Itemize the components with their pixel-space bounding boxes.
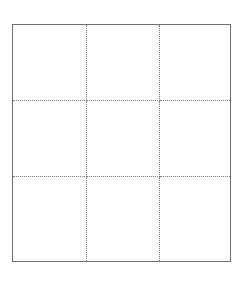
grid-cell-r3-c3[interactable] — [160, 177, 230, 261]
grid-cell-r2-c3[interactable] — [160, 101, 230, 177]
grid-cell-r1-c1[interactable] — [13, 25, 87, 101]
grid-cell-r1-c2[interactable] — [87, 25, 160, 101]
grid-cell-r3-c2[interactable] — [87, 177, 160, 261]
grid-cell-r3-c1[interactable] — [13, 177, 87, 261]
grid-cell-r1-c3[interactable] — [160, 25, 230, 101]
grid-cell-r2-c1[interactable] — [13, 101, 87, 177]
grid-cell-r2-c2[interactable] — [87, 101, 160, 177]
three-by-three-grid — [12, 24, 231, 262]
